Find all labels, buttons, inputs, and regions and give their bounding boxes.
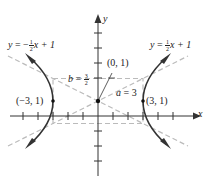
center-point — [96, 99, 100, 103]
b-label: b = 32 — [68, 73, 89, 86]
diagram-canvas — [0, 0, 207, 183]
hyperbola-diagram: y x y = −12x + 1 y = 12x + 1 (0, 1) b = … — [0, 0, 207, 183]
right-asymptote-label: y = 12x + 1 — [150, 39, 191, 52]
left-asymptote-label: y = −12x + 1 — [8, 39, 55, 52]
center-label: (0, 1) — [107, 58, 129, 68]
x-axis — [10, 112, 201, 120]
y-axis-label: y — [103, 14, 107, 24]
right-vertex-label: (3, 1) — [146, 96, 168, 106]
x-axis-label: x — [198, 109, 202, 119]
a-label: a = 3 — [116, 88, 137, 98]
left-vertex-point — [51, 99, 55, 103]
right-vertex-point — [141, 99, 145, 103]
left-vertex-label: (−3, 1) — [16, 96, 43, 106]
